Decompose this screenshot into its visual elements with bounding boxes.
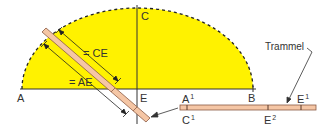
dimension-ae-label: = AE — [69, 77, 93, 88]
horizontal-trammel — [180, 105, 316, 110]
label-a: A — [17, 93, 24, 104]
mark-e1-sup: 1 — [305, 93, 309, 100]
mark-e1-label: E1 — [297, 93, 309, 105]
trammel-label: Trammel — [265, 42, 304, 52]
ellipse-trammel-diagram: C A E B = CE = AE Trammel A1 C1 E2 E1 — [0, 0, 334, 134]
mark-e2-letter: E — [264, 114, 271, 126]
mark-e2-label: E2 — [264, 114, 276, 126]
mark-a1-label: A1 — [182, 93, 194, 105]
mark-a1-sup: 1 — [190, 93, 194, 100]
label-c: C — [141, 11, 149, 22]
diagram-canvas — [0, 0, 334, 134]
mark-c1-sup: 1 — [191, 114, 195, 121]
mark-e1-letter: E — [297, 93, 304, 105]
dimension-ce-label: = CE — [83, 48, 108, 59]
link-arrow — [151, 108, 178, 117]
label-b: B — [248, 93, 255, 104]
mark-e2-sup: 2 — [272, 114, 276, 121]
mark-c1-letter: C — [182, 114, 190, 126]
mark-a1-letter: A — [182, 93, 189, 105]
label-e: E — [140, 93, 147, 104]
mark-c1-label: C1 — [182, 114, 195, 126]
